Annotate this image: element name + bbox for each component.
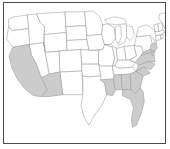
us-choropleth-map-figure <box>0 0 170 149</box>
lake-huron-erie <box>126 26 134 41</box>
lake-superior <box>105 17 127 25</box>
state-CO[interactable] <box>59 49 82 72</box>
state-MN[interactable] <box>85 11 103 36</box>
state-SD[interactable] <box>66 26 87 41</box>
state-RI[interactable] <box>161 35 163 39</box>
state-MS[interactable] <box>114 75 123 90</box>
state-NH[interactable] <box>158 23 163 32</box>
state-KS[interactable] <box>81 49 99 64</box>
state-ND[interactable] <box>65 12 86 27</box>
map-frame-border <box>3 2 166 144</box>
state-AL[interactable] <box>122 74 132 90</box>
state-WA[interactable] <box>9 15 29 31</box>
us-map-svg <box>4 3 165 143</box>
states-layer <box>7 11 165 127</box>
state-IA[interactable] <box>87 35 105 51</box>
state-OK[interactable] <box>82 64 101 77</box>
state-OR[interactable] <box>7 27 30 48</box>
state-FL[interactable] <box>123 88 145 127</box>
state-AR[interactable] <box>99 64 114 80</box>
state-NM[interactable] <box>60 71 83 95</box>
state-NE[interactable] <box>67 39 89 50</box>
state-WY[interactable] <box>44 33 67 53</box>
state-TX[interactable] <box>81 76 107 125</box>
